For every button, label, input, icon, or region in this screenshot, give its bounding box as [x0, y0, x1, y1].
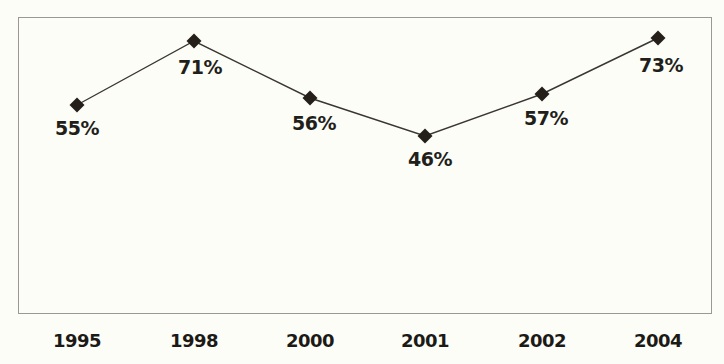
value-label-2000: 56%	[292, 112, 336, 134]
x-axis-label-1998: 1998	[170, 330, 218, 351]
x-axis-label-1995: 1995	[53, 330, 101, 351]
value-label-2004: 73%	[639, 54, 683, 76]
value-label-1998: 71%	[178, 56, 222, 78]
x-axis-label-2002: 2002	[518, 330, 566, 351]
data-point-1998[interactable]	[183, 30, 205, 52]
x-axis-label-2001: 2001	[401, 330, 449, 351]
data-point-1995[interactable]	[66, 94, 88, 116]
x-axis-label-2004: 2004	[634, 330, 682, 351]
x-axis-label-2000: 2000	[286, 330, 334, 351]
value-label-2001: 46%	[408, 148, 452, 170]
data-point-2002[interactable]	[531, 83, 553, 105]
data-point-2000[interactable]	[299, 87, 321, 109]
plot-area-border	[18, 17, 712, 314]
chart-title-clipped	[0, 0, 724, 9]
line-chart: 55%71%56%46%57%73% 199519982000200120022…	[0, 0, 724, 364]
value-label-1995: 55%	[55, 117, 99, 139]
data-point-2001[interactable]	[414, 125, 436, 147]
value-label-2002: 57%	[524, 107, 568, 129]
data-point-2004[interactable]	[647, 27, 669, 49]
